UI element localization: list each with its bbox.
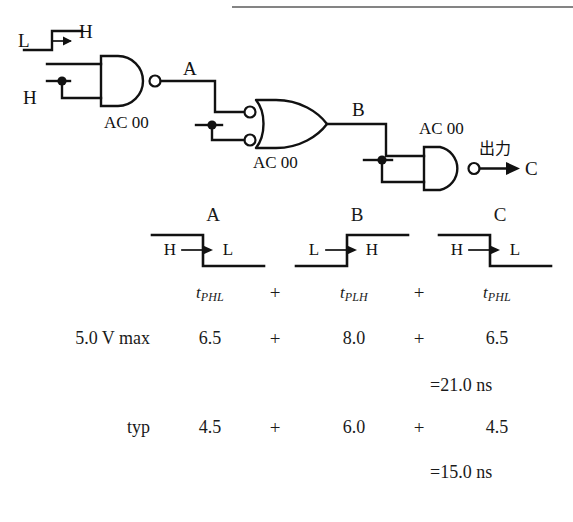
node-label-c: C [525, 158, 538, 180]
operator-4: + [389, 328, 449, 350]
column-header-a: A H L [148, 204, 278, 270]
operator-2: + [389, 282, 449, 304]
column-header-c: C H L [435, 204, 565, 270]
svg-text:H: H [451, 240, 463, 259]
circuit-diagram: L H H A B C AC 00 AC 00 AC 00 出力 [0, 0, 573, 200]
timing-table: A H L B L H [0, 200, 573, 522]
delay-symbol-c-sub: PHL [488, 290, 511, 304]
wire-b [327, 124, 424, 156]
gate1-input-junction-dot [57, 76, 66, 85]
gate1-output-bubble [150, 76, 161, 87]
gate2-input-bottom [212, 125, 244, 140]
svg-text:H: H [164, 240, 176, 259]
gate1-nand-body [101, 56, 143, 106]
operator-3: + [245, 328, 305, 350]
operator-6: + [389, 417, 449, 439]
node-label-a: A [183, 58, 197, 80]
input-waveform-low-label: L [18, 30, 30, 52]
input-waveform-glyph [24, 31, 82, 50]
value-typ-c: 4.5 [442, 417, 552, 438]
gate2-part-label: AC 00 [253, 153, 298, 173]
delay-symbol-b-sub: PLH [345, 290, 368, 304]
delay-symbol-c: tPHL [442, 282, 552, 305]
total-max: =21.0 ns [430, 375, 565, 396]
output-caption-label: 出力 [479, 135, 511, 159]
figure-root: L H H A B C AC 00 AC 00 AC 00 出力 A H L [0, 0, 573, 522]
gate2-input-junction-dot [207, 120, 216, 129]
input-waveform-high-label: H [79, 21, 93, 43]
row-label-max: 5.0 V max [10, 328, 150, 349]
gate3-part-label: AC 00 [419, 119, 464, 139]
column-header-b: B L H [292, 204, 422, 270]
gate3-input-bottom [382, 160, 424, 182]
operator-1: + [245, 282, 305, 304]
waveform-b-rising: L H [292, 222, 422, 272]
svg-text:L: L [510, 240, 520, 259]
gate3-output-bubble [469, 163, 480, 174]
output-arrowhead [506, 162, 520, 175]
svg-text:L: L [223, 240, 233, 259]
gate1-part-label: AC 00 [104, 113, 149, 133]
gate3-input-junction-dot [377, 155, 386, 164]
value-max-c: 6.5 [442, 328, 552, 349]
gate2-input-bubble-top [245, 107, 256, 118]
svg-text:L: L [309, 240, 319, 259]
row-label-typ: typ [10, 417, 150, 438]
waveform-c-falling: H L [435, 222, 565, 272]
svg-text:H: H [366, 240, 378, 259]
waveform-a-falling: H L [148, 222, 278, 272]
gate2-input-bubble-bottom [245, 135, 256, 146]
wire-a [161, 81, 248, 112]
operator-5: + [245, 417, 305, 439]
delay-symbol-a-sub: PHL [201, 290, 224, 304]
gate3-nand-body [424, 147, 457, 190]
node-label-b: B [352, 99, 365, 121]
static-input-label: H [23, 87, 37, 109]
gate1-input-bottom [62, 81, 101, 98]
gate2-or-body [256, 100, 327, 148]
total-typ: =15.0 ns [430, 462, 565, 483]
